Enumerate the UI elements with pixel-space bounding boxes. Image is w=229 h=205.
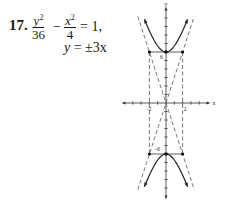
y-axis-arrow-down xyxy=(165,196,168,200)
hyperbola-graph: -226-6xy xyxy=(0,0,229,205)
rect-corner-point xyxy=(148,152,151,155)
vertex-point xyxy=(164,152,168,156)
rect-corner-point xyxy=(181,50,184,53)
rect-corner-point xyxy=(148,50,151,53)
y-tick-label-neg6: -6 xyxy=(155,146,160,152)
rect-corner-point xyxy=(181,152,184,155)
y-axis-arrow xyxy=(165,7,168,11)
x-tick-label-neg2: -2 xyxy=(146,106,151,112)
y-axis-label: y xyxy=(165,1,168,7)
x-axis-label: x xyxy=(213,100,216,106)
vertex-point xyxy=(164,50,168,54)
x-axis-arrow xyxy=(207,102,211,105)
x-axis-arrow-left xyxy=(122,102,126,105)
y-tick-label-6: 6 xyxy=(160,54,163,60)
x-tick-label-2: 2 xyxy=(184,106,187,112)
